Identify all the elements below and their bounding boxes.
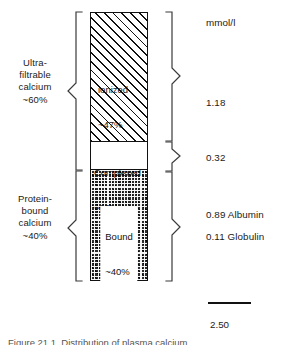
left-label-line: calcium	[2, 81, 68, 93]
value-ionized: 1.18	[206, 97, 225, 109]
left-label-line: filtrable	[2, 69, 68, 81]
right-bracket-bound	[164, 171, 182, 282]
total-divider-rule	[208, 302, 251, 304]
figure-caption: Figure 21.1 Distribution of plasma calci…	[8, 337, 208, 345]
left-label-protein-bound-calcium: Protein- bound calcium ~40%	[2, 193, 68, 242]
left-label-line: Ultra-	[2, 57, 68, 69]
left-label-line: ~40%	[2, 230, 68, 242]
segment-label-ionized: ionized ~47%	[98, 61, 128, 154]
left-label-line: Protein-	[2, 193, 68, 205]
segment-label-line: Complexed	[94, 168, 141, 180]
segment-label-line: ionized	[98, 84, 128, 96]
value-bound-globulin: 0.11 Globulin	[206, 231, 264, 243]
left-label-line: calcium	[2, 217, 68, 229]
plasma-calcium-stacked-bar: ionized ~47% Complexed ~13% Bound ~40%	[90, 12, 148, 281]
value-bound-albumin: 0.89 Albumin	[206, 209, 264, 221]
segment-label-bound: Bound ~40%	[100, 206, 137, 304]
segment-label-line: ~40%	[105, 266, 132, 278]
segment-label-line: Bound	[105, 231, 132, 243]
figure-canvas: Ultra- filtrable calcium ~60% Protein- b…	[0, 0, 297, 345]
right-bracket-complexed	[164, 141, 182, 172]
left-label-line: ~60%	[2, 94, 68, 106]
segment-label-line: ~47%	[98, 119, 128, 131]
unit-header: mmol/l	[206, 17, 235, 29]
value-total: 2.50	[210, 319, 229, 331]
right-bracket-ionized	[164, 11, 182, 142]
left-label-line: bound	[2, 205, 68, 217]
value-complexed: 0.32	[206, 152, 225, 164]
left-bracket-ultrafiltrable	[66, 11, 84, 171]
left-label-ultrafiltrable-calcium: Ultra- filtrable calcium ~60%	[2, 57, 68, 106]
left-bracket-protein-bound	[66, 170, 84, 282]
